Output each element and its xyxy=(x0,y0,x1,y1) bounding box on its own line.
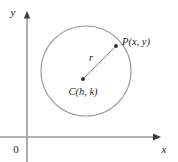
x-axis-arrowhead-icon xyxy=(153,134,161,141)
center-point-label: C(h, k) xyxy=(68,86,98,98)
origin-label: 0 xyxy=(13,143,19,155)
circle-diagram-canvas: y x 0 r C(h, k) P(x, y) xyxy=(0,0,178,162)
x-axis-label: x xyxy=(161,143,167,155)
circle-diagram-figure: y x 0 r C(h, k) P(x, y) xyxy=(0,0,178,162)
center-point-dot xyxy=(81,77,85,81)
radius-label: r xyxy=(89,52,94,63)
circle-point-label: P(x, y) xyxy=(121,36,150,48)
circle-outline xyxy=(41,26,131,116)
y-axis-arrowhead-icon xyxy=(24,11,30,19)
y-axis-label: y xyxy=(10,6,16,18)
circle-point-dot xyxy=(114,44,118,48)
radius-segment xyxy=(83,46,116,79)
